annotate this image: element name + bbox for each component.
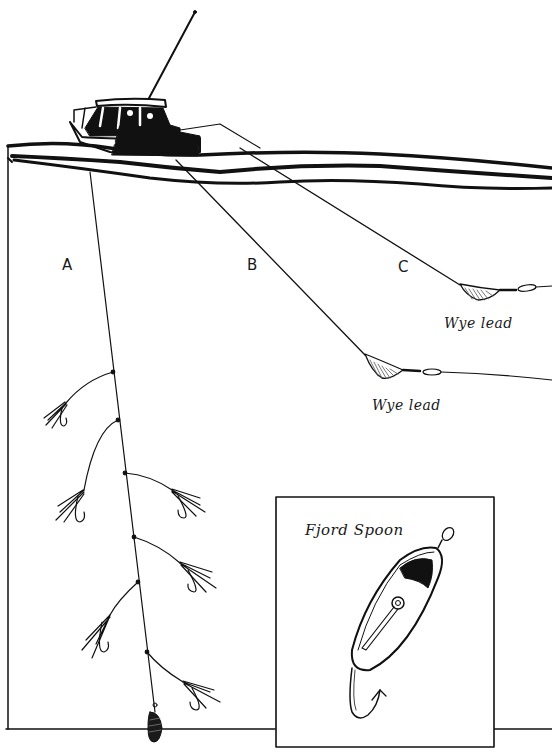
- fly-hook-icon: [183, 681, 220, 710]
- fly-hook-icon: [172, 489, 205, 518]
- rig-c-label: C: [398, 258, 409, 276]
- fishing-rig-illustration: [0, 0, 552, 753]
- wye-lead-c: [460, 284, 552, 300]
- wye-lead-b-label: Wye lead: [372, 397, 441, 413]
- wye-lead-c-label: Wye lead: [444, 315, 513, 331]
- rig-b-line: [176, 160, 552, 380]
- wye-lead-b: [365, 354, 552, 380]
- rig-a-flies: [44, 370, 220, 710]
- antenna-icon: [148, 11, 197, 101]
- fly-hook-icon: [82, 615, 110, 658]
- rig-a-label: A: [62, 256, 73, 274]
- fly-hook-icon: [56, 490, 85, 522]
- water-surface: [8, 143, 552, 188]
- rig-b-label: B: [247, 256, 258, 274]
- rig-a-line: [90, 172, 155, 712]
- fly-hook-icon: [180, 562, 216, 592]
- fly-hook-icon: [44, 402, 67, 428]
- inset-title: Fjord Spoon: [305, 521, 404, 539]
- rig-c-line: [240, 148, 552, 300]
